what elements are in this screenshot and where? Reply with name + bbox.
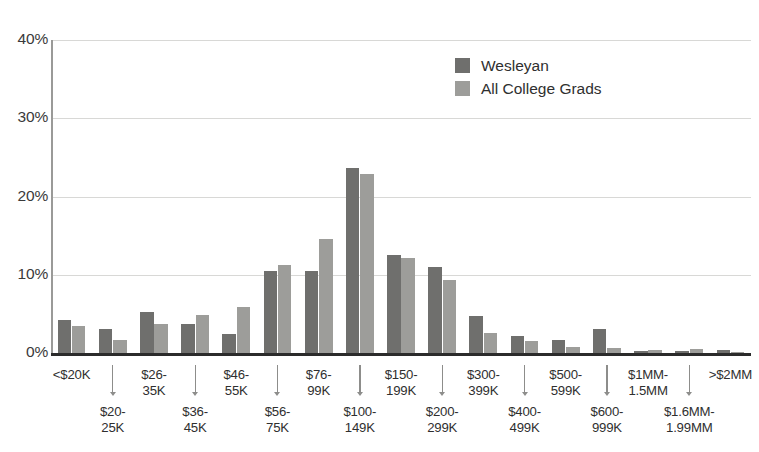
x-axis-category-label: $100-149K	[315, 404, 405, 436]
bar-group	[264, 40, 292, 353]
x-axis-category-label: $20-25K	[68, 404, 158, 436]
y-axis-tick-label: 30%	[4, 108, 48, 126]
legend-swatch-icon	[455, 58, 470, 73]
x-axis-category-label: $56-75K	[232, 404, 322, 436]
bar-group	[181, 40, 209, 353]
bar	[99, 329, 113, 353]
bar	[593, 329, 607, 353]
bar	[222, 334, 236, 353]
bar	[181, 324, 195, 353]
bar-group	[675, 40, 703, 353]
bar	[58, 320, 72, 353]
bar	[346, 168, 360, 353]
bar	[401, 258, 415, 353]
legend-item-label: Wesleyan	[481, 57, 549, 75]
x-axis-category-label: $76-99K	[274, 367, 364, 399]
x-axis-category-label: $150-199K	[356, 367, 446, 399]
y-axis-tick-label: 20%	[4, 187, 48, 205]
bar	[360, 174, 374, 353]
bar-group	[99, 40, 127, 353]
bar	[511, 336, 525, 353]
bar	[552, 340, 566, 353]
bar-group	[387, 40, 415, 353]
x-axis-category-label: $500-599K	[521, 367, 611, 399]
x-axis-category-label: $26-35K	[109, 367, 199, 399]
chart-legend: WesleyanAll College Grads	[455, 54, 602, 100]
bar	[305, 271, 319, 353]
x-axis-category-label: >$2MM	[685, 367, 759, 383]
bar-group	[634, 40, 662, 353]
bar-group	[222, 40, 250, 353]
x-axis-category-label: $1MM-1.5MM	[603, 367, 693, 399]
bar	[72, 326, 86, 353]
y-axis-tick-label: 40%	[4, 30, 48, 48]
x-axis-category-label: $300-399K	[438, 367, 528, 399]
bar	[319, 239, 333, 353]
bar	[154, 324, 168, 353]
x-axis-category-label: $46-55K	[191, 367, 281, 399]
bar-group	[717, 40, 745, 353]
x-axis-category-label: $200-299K	[397, 404, 487, 436]
bar-group	[305, 40, 333, 353]
bar	[428, 267, 442, 353]
bar	[387, 255, 401, 353]
x-axis-category-label: $400-499K	[480, 404, 570, 436]
bar	[443, 280, 457, 353]
bar	[469, 316, 483, 353]
bar	[196, 315, 210, 353]
legend-item[interactable]: All College Grads	[455, 77, 602, 100]
bar	[113, 340, 127, 353]
x-axis-category-label: $600-999K	[562, 404, 652, 436]
bar-group	[140, 40, 168, 353]
x-axis-category-label: $36-45K	[150, 404, 240, 436]
x-axis-category-label: $1.6MM-1.99MM	[644, 404, 734, 436]
bar	[278, 265, 292, 353]
bar	[484, 333, 498, 353]
bar-group	[346, 40, 374, 353]
bar	[237, 307, 251, 353]
bar	[264, 271, 278, 353]
income-distribution-chart: 40%30%20%10%0% WesleyanAll College Grads…	[0, 0, 759, 452]
x-axis-labels: <$20K$20-25K$26-35K$36-45K$46-55K$56-75K…	[0, 353, 759, 452]
legend-swatch-icon	[455, 81, 470, 96]
bar-group	[428, 40, 456, 353]
y-axis-tick-label: 10%	[4, 265, 48, 283]
bar	[140, 312, 154, 353]
bar-group	[58, 40, 86, 353]
x-axis-category-label: <$20K	[27, 367, 117, 383]
bars-layer	[51, 40, 751, 353]
legend-item-label: All College Grads	[481, 80, 602, 98]
legend-item[interactable]: Wesleyan	[455, 54, 602, 77]
bar	[525, 341, 539, 353]
